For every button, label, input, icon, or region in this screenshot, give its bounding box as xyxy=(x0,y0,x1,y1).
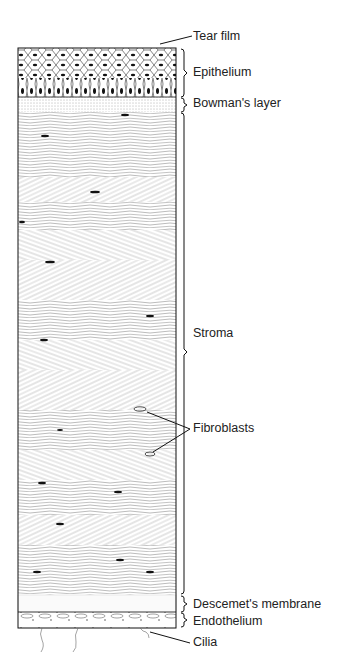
layer-braces xyxy=(181,49,187,627)
tear-film-leader xyxy=(160,36,192,44)
cornea-diagram xyxy=(0,0,347,671)
label-tear-film: Tear film xyxy=(193,29,240,43)
label-endothelium: Endothelium xyxy=(193,614,263,628)
label-epithelium: Epithelium xyxy=(193,65,251,79)
cilia xyxy=(41,628,150,652)
stroma-layer xyxy=(18,112,176,595)
endothelium-layer xyxy=(18,612,176,628)
label-cilia: Cilia xyxy=(193,635,217,649)
label-stroma: Stroma xyxy=(193,326,233,340)
label-fibroblasts: Fibroblasts xyxy=(193,421,254,435)
descemet-layer xyxy=(18,595,176,612)
label-bowman: Bowman's layer xyxy=(193,96,281,110)
epithelium-layer xyxy=(18,48,176,97)
cilia-leader xyxy=(150,632,190,643)
label-descemet: Descemet's membrane xyxy=(193,597,321,611)
bowman-layer xyxy=(18,97,176,112)
